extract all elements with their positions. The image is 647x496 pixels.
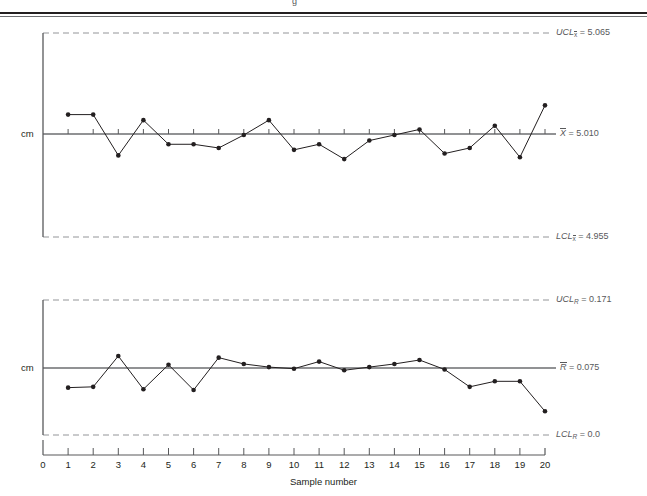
- r-data-point: [518, 379, 523, 384]
- x-tick-label-10: 10: [284, 459, 304, 470]
- x-tick-label-11: 11: [309, 459, 329, 470]
- xbar-lcl-label: LCLx = 4.955: [556, 231, 609, 242]
- r-data-point: [417, 358, 422, 363]
- x-tick-label-12: 12: [334, 459, 354, 470]
- r-data-point: [216, 355, 221, 360]
- r-data-point: [191, 388, 196, 393]
- xbar-data-point: [216, 146, 221, 151]
- r-data-point: [66, 385, 71, 390]
- xbar-lcl-value: 4.955: [586, 231, 609, 241]
- x-tick-label-1: 1: [58, 459, 78, 470]
- r-data-point: [392, 362, 397, 367]
- x-tick-label-18: 18: [485, 459, 505, 470]
- x-tick-label-8: 8: [234, 459, 254, 470]
- xbar-data-point: [392, 133, 397, 138]
- x-tick-label-5: 5: [159, 459, 179, 470]
- r-ucl-label: UCLR = 0.171: [556, 294, 612, 305]
- x-axis-title: Sample number: [0, 476, 647, 487]
- xbar-data-point: [467, 146, 472, 151]
- xbar-data-line: [68, 105, 545, 159]
- xbar-data-point: [166, 142, 171, 147]
- r-center-label: R = 0.075: [560, 362, 599, 372]
- r-center-value: 0.075: [577, 362, 600, 372]
- control-chart-figure: g UCLx = 5.065 X = 5.010 LCLx = 4.955 cm…: [0, 0, 647, 496]
- r-lcl-label: LCLR = 0.0: [556, 429, 600, 440]
- xbar-data-point: [66, 112, 71, 117]
- x-tick-label-14: 14: [384, 459, 404, 470]
- xbar-data-point: [91, 112, 96, 117]
- xbar-data-point: [317, 142, 322, 147]
- x-tick-label-19: 19: [510, 459, 530, 470]
- r-ucl-value: 0.171: [589, 294, 612, 304]
- x-tick-label-17: 17: [460, 459, 480, 470]
- x-tick-label-7: 7: [209, 459, 229, 470]
- xbar-ucl-label: UCLx = 5.065: [556, 27, 610, 38]
- xbar-data-point: [292, 148, 297, 153]
- r-data-point: [166, 362, 171, 367]
- r-y-axis-label: cm: [21, 362, 34, 373]
- x-tick-label-16: 16: [435, 459, 455, 470]
- r-data-point: [116, 354, 121, 359]
- xbar-data-point: [417, 127, 422, 132]
- r-data-point: [292, 366, 297, 371]
- charts-canvas: [0, 0, 647, 496]
- r-data-line: [68, 356, 545, 411]
- xbar-data-point: [367, 138, 372, 143]
- r-data-point: [467, 385, 472, 390]
- r-data-point: [442, 367, 447, 372]
- r-data-point: [543, 409, 548, 414]
- xbar-data-point: [242, 133, 247, 138]
- xbar-data-point: [543, 103, 548, 108]
- x-tick-label-0: 0: [33, 459, 53, 470]
- x-tick-label-15: 15: [410, 459, 430, 470]
- r-data-point: [493, 379, 498, 384]
- xbar-data-point: [191, 142, 196, 147]
- x-tick-label-3: 3: [108, 459, 128, 470]
- r-data-point: [242, 362, 247, 367]
- xbar-center-label: X = 5.010: [560, 128, 599, 138]
- r-data-point: [342, 368, 347, 373]
- xbar-data-point: [442, 151, 447, 156]
- xbar-ucl-value: 5.065: [588, 27, 611, 37]
- xbar-center-value: 5.010: [576, 128, 599, 138]
- r-data-point: [317, 359, 322, 364]
- x-tick-label-2: 2: [83, 459, 103, 470]
- r-lcl-value: 0.0: [587, 429, 600, 439]
- xbar-data-point: [493, 123, 498, 128]
- r-data-point: [91, 385, 96, 390]
- x-tick-label-6: 6: [184, 459, 204, 470]
- r-data-point: [267, 365, 272, 370]
- xbar-data-point: [342, 157, 347, 162]
- r-data-point: [367, 365, 372, 370]
- xbar-data-point: [518, 155, 523, 160]
- xbar-data-point: [116, 153, 121, 158]
- xbar-y-axis-label: cm: [21, 128, 34, 139]
- x-tick-label-20: 20: [535, 459, 555, 470]
- x-tick-label-9: 9: [259, 459, 279, 470]
- r-data-point: [141, 387, 146, 392]
- xbar-data-point: [141, 118, 146, 123]
- x-tick-label-13: 13: [359, 459, 379, 470]
- x-tick-label-4: 4: [133, 459, 153, 470]
- xbar-data-point: [267, 118, 272, 123]
